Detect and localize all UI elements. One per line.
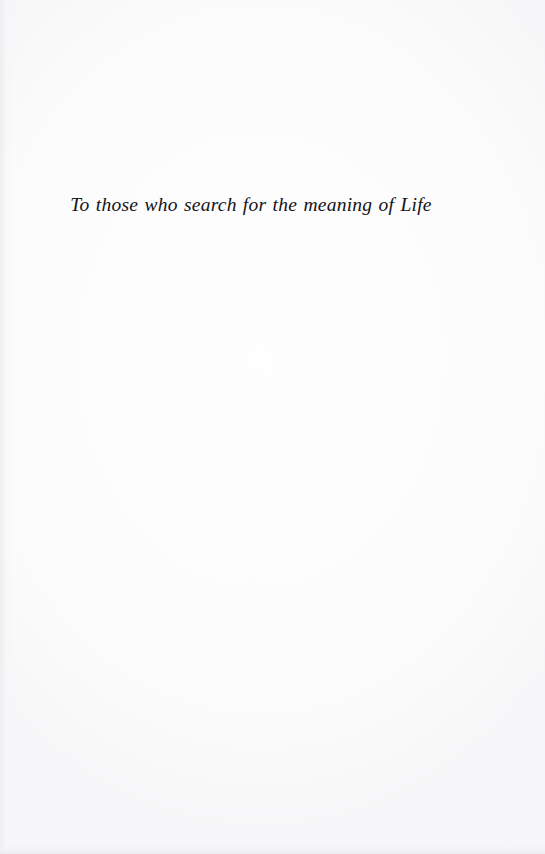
left-edge-scan-streak <box>0 0 14 854</box>
paper-grain-overlay <box>0 0 545 854</box>
bottom-edge-scan-band <box>0 844 545 854</box>
dedication-text: To those who search for the meaning of L… <box>0 193 502 217</box>
document-page: To those who search for the meaning of L… <box>0 0 545 854</box>
